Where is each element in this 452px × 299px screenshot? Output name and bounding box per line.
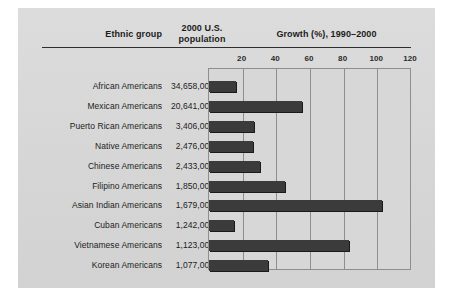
row-value-population: 3,406,000 xyxy=(166,121,214,131)
row-value-population: 20,641,000 xyxy=(166,101,214,111)
row-value-population: 1,679,000 xyxy=(166,200,214,210)
chart-figure: Ethnic group 2000 U.S. population Growth… xyxy=(0,0,452,299)
x-tick-label: 120 xyxy=(395,54,425,63)
row-label-ethnic-group: Korean Americans xyxy=(24,260,162,270)
x-tick-label: 100 xyxy=(361,54,391,63)
x-tick-label: 60 xyxy=(294,54,324,63)
header-divider xyxy=(42,47,411,48)
bar xyxy=(209,81,236,92)
column-header-growth: Growth (%), 1990–2000 xyxy=(236,29,417,40)
bar xyxy=(209,181,285,192)
row-value-population: 1,123,000 xyxy=(166,240,214,250)
row-value-population: 2,476,000 xyxy=(166,141,214,151)
plot-area xyxy=(208,68,411,270)
column-header-population: 2000 U.S. population xyxy=(170,23,234,44)
x-tick-label: 40 xyxy=(260,54,290,63)
bar-series xyxy=(209,69,410,269)
bar xyxy=(209,161,260,172)
bar xyxy=(209,101,302,112)
column-header-population-line2: population xyxy=(170,34,234,45)
bar xyxy=(209,220,234,231)
bar xyxy=(209,240,349,251)
bar xyxy=(209,260,268,271)
x-axis-tick-labels: 20406080100120 xyxy=(0,54,452,67)
row-value-population: 1,850,000 xyxy=(166,181,214,191)
row-label-ethnic-group: African Americans xyxy=(24,81,162,91)
row-label-ethnic-group: Filipino Americans xyxy=(24,181,162,191)
row-label-ethnic-group: Cuban Americans xyxy=(24,220,162,230)
row-value-population: 2,433,000 xyxy=(166,161,214,171)
x-tick-label: 20 xyxy=(227,54,257,63)
row-value-population: 34,658,000 xyxy=(166,81,214,91)
column-header-ethnic-group: Ethnic group xyxy=(24,29,162,40)
x-tick-label: 80 xyxy=(328,54,358,63)
bar xyxy=(209,200,382,211)
bar xyxy=(209,121,254,132)
row-label-ethnic-group: Native Americans xyxy=(24,141,162,151)
row-label-ethnic-group: Asian Indian Americans xyxy=(24,200,162,210)
row-label-ethnic-group: Vietnamese Americans xyxy=(24,240,162,250)
row-label-ethnic-group: Mexican Americans xyxy=(24,101,162,111)
row-label-ethnic-group: Chinese Americans xyxy=(24,161,162,171)
table-header: Ethnic group 2000 U.S. population Growth… xyxy=(24,10,417,48)
bar xyxy=(209,141,253,152)
row-value-population: 1,242,000 xyxy=(166,220,214,230)
row-label-ethnic-group: Puerto Rican Americans xyxy=(24,121,162,131)
column-header-population-line1: 2000 U.S. xyxy=(170,23,234,34)
row-value-population: 1,077,000 xyxy=(166,260,214,270)
